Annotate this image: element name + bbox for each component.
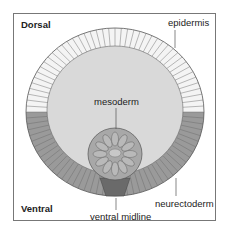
- mesoderm-label: mesoderm: [94, 97, 139, 107]
- dorsal-label: Dorsal: [21, 20, 51, 30]
- neurectoderm-label: neurectoderm: [155, 199, 214, 209]
- ventral-midline-label: ventral midline: [90, 212, 151, 222]
- ventral-label: Ventral: [21, 204, 53, 214]
- epidermis-label: epidermis: [168, 18, 209, 28]
- mesoderm-rosette: [88, 128, 142, 180]
